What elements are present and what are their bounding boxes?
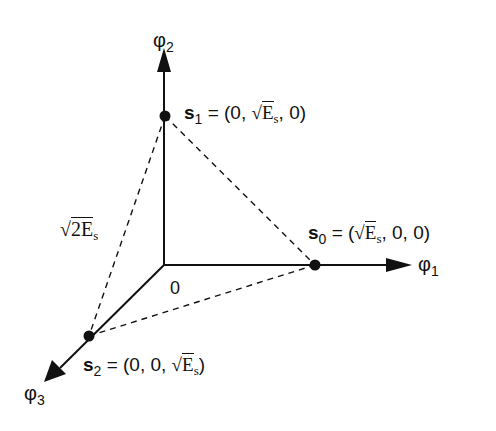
sqrt-icon: √ <box>60 219 71 239</box>
s2-label: s2 = (0, 0, √Es) <box>83 355 205 374</box>
equals: = ( <box>332 222 355 243</box>
radicand-subscript: s <box>93 228 98 243</box>
axis-subscript: 2 <box>166 39 174 55</box>
point-s1 <box>160 111 171 122</box>
sqrt-icon: √ <box>354 223 364 242</box>
point-s2 <box>84 331 95 342</box>
coords-suffix: ) <box>199 354 205 375</box>
coords-suffix: , 0) <box>279 102 306 123</box>
radicand-subscript: s <box>194 363 199 378</box>
phi3-axis <box>60 265 164 368</box>
phi3-arrowhead-icon <box>44 360 66 382</box>
phi-symbol: φ <box>24 382 37 404</box>
point-subscript: 1 <box>195 111 203 127</box>
point-name: s <box>184 102 195 123</box>
radicand: 2E <box>71 217 93 240</box>
constellation-diagram <box>0 0 496 431</box>
sqrt-icon: √ <box>251 103 261 122</box>
radicand: E <box>365 221 377 243</box>
phi1-label: φ1 <box>418 254 439 274</box>
edge-s2-s0 <box>89 265 315 336</box>
equals: = ( <box>107 354 130 375</box>
point-name: s <box>308 222 319 243</box>
coords-prefix: 0, <box>230 102 251 123</box>
s1-label: s1 = (0, √Es, 0) <box>184 103 306 122</box>
point-subscript: 2 <box>94 363 102 379</box>
phi-symbol: φ <box>153 29 166 51</box>
phi-symbol: φ <box>418 253 431 275</box>
coords-suffix: , 0, 0) <box>381 222 430 243</box>
sqrt-icon: √ <box>172 355 182 374</box>
phi3-label: φ3 <box>24 383 45 403</box>
point-subscript: 0 <box>319 231 327 247</box>
origin-label: 0 <box>170 279 180 297</box>
distance-label: √2Es <box>60 219 98 239</box>
radicand-subscript: s <box>274 111 279 126</box>
phi2-label: φ2 <box>153 30 174 50</box>
radicand-subscript: s <box>376 231 381 246</box>
s0-label: s0 = (√Es, 0, 0) <box>308 223 430 242</box>
axis-subscript: 1 <box>431 263 439 279</box>
point-name: s <box>83 354 94 375</box>
axis-subscript: 3 <box>37 392 45 408</box>
equals: = ( <box>208 102 231 123</box>
radicand: E <box>182 353 194 375</box>
point-s0 <box>310 260 321 271</box>
coords-prefix: 0, 0, <box>129 354 171 375</box>
phi1-arrowhead-icon <box>386 258 412 272</box>
radicand: E <box>262 101 274 123</box>
edge-s1-s0 <box>165 116 315 265</box>
